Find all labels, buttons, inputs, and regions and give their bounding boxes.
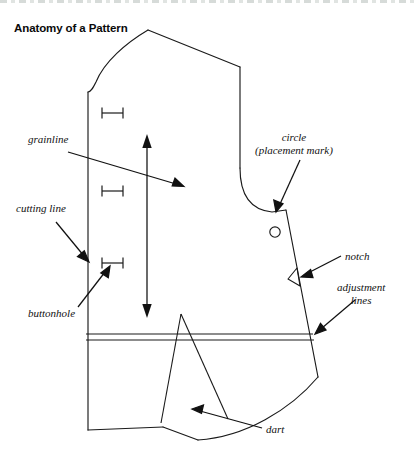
- figure-page: Anatomy of a Pattern: [0, 0, 415, 454]
- shoulder-seam-line: [148, 30, 240, 67]
- leader-arrow-cutting-line: [56, 222, 89, 262]
- hem-line-dart-notch: [163, 427, 198, 440]
- label-circle-placement-mark: circle (placement mark): [255, 131, 333, 156]
- label-adjustment-line2: lines: [337, 294, 385, 307]
- pattern-outline: [88, 30, 318, 440]
- label-adjustment-line1: adjustment: [337, 281, 385, 294]
- buttonhole-mark: [102, 258, 123, 269]
- grainline-arrow: [142, 134, 151, 318]
- placement-circle: [270, 227, 280, 237]
- label-circle-line1: circle: [255, 131, 333, 144]
- label-dart: dart: [266, 423, 284, 436]
- label-grainline: grainline: [28, 133, 68, 146]
- side-seam-lower: [286, 210, 318, 377]
- leader-arrow-grainline: [68, 152, 184, 187]
- leader-arrow-notch: [301, 256, 341, 278]
- leader-arrow-circle: [274, 160, 300, 212]
- buttonhole-mark: [102, 108, 123, 119]
- adjustment-lines: [86, 334, 314, 340]
- leader-arrow-buttonhole: [78, 266, 110, 307]
- neckline-curve: [88, 30, 148, 92]
- buttonhole-marks: [102, 108, 123, 269]
- label-adjustment-lines: adjustment lines: [337, 281, 385, 306]
- pattern-diagram-canvas: [0, 0, 415, 454]
- label-cutting-line: cutting line: [16, 202, 66, 215]
- label-circle-line2: (placement mark): [255, 144, 333, 157]
- label-notch: notch: [345, 250, 369, 263]
- buttonhole-mark: [102, 186, 123, 197]
- hem-line: [88, 427, 163, 430]
- dart-triangle: [161, 314, 228, 423]
- label-buttonhole: buttonhole: [28, 307, 75, 320]
- leader-arrows: [56, 152, 355, 428]
- hem-line-curve: [198, 377, 318, 440]
